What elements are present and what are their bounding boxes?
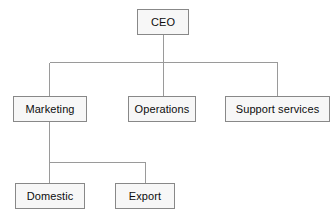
node-export-label: Export — [127, 191, 163, 202]
node-ceo-label: CEO — [149, 17, 177, 28]
node-support-services-label: Support services — [234, 104, 322, 115]
org-chart: CEO Marketing Operations Support service… — [0, 0, 335, 220]
node-domestic-label: Domestic — [25, 191, 76, 202]
node-ceo[interactable]: CEO — [137, 9, 189, 35]
node-export[interactable]: Export — [115, 183, 175, 209]
node-operations[interactable]: Operations — [128, 96, 196, 122]
node-operations-label: Operations — [133, 104, 192, 115]
node-support-services[interactable]: Support services — [225, 96, 330, 122]
node-domestic[interactable]: Domestic — [15, 183, 85, 209]
node-marketing[interactable]: Marketing — [13, 96, 87, 122]
node-marketing-label: Marketing — [23, 104, 76, 115]
